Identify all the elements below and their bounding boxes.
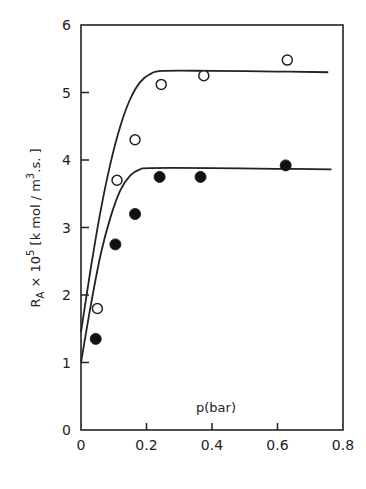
y-title-rest1: [k mol / m xyxy=(28,179,43,249)
fit-curves xyxy=(81,71,332,363)
filled-circles-point xyxy=(154,171,165,182)
x-tick-label: 0.8 xyxy=(332,437,354,453)
y-title-main: R xyxy=(28,298,43,307)
x-tick-label: 0 xyxy=(77,437,86,453)
y-title-mid: × 10 xyxy=(28,256,43,292)
y-tick-label: 2 xyxy=(62,287,71,303)
y-tick-label: 1 xyxy=(62,355,71,371)
plot-frame xyxy=(81,25,343,430)
open-circles-fit-curve xyxy=(81,71,328,333)
open-circles-point xyxy=(130,135,140,145)
filled-circles-point xyxy=(195,171,206,182)
y-tick-label: 6 xyxy=(62,17,71,33)
open-circles-point xyxy=(282,55,292,65)
chart: 00.20.40.60.8 0123456 p(bar) RA × 105 [k… xyxy=(0,0,366,489)
y-axis-title: RA × 105 [k mol / m3.s. ] xyxy=(25,149,46,308)
open-circles-point xyxy=(156,79,166,89)
filled-circles-point xyxy=(130,209,141,220)
data-points xyxy=(90,55,292,344)
y-tick-label: 4 xyxy=(62,152,71,168)
y-tick-label: 3 xyxy=(62,220,71,236)
y-tick-label: 5 xyxy=(62,85,71,101)
open-circles-point xyxy=(112,175,122,185)
open-circles-point xyxy=(199,71,209,81)
x-tick-label: 0.2 xyxy=(135,437,157,453)
open-circles-point xyxy=(92,304,102,314)
x-tick-label: 0.4 xyxy=(201,437,223,453)
y-tick-label: 0 xyxy=(62,422,71,438)
y-title-rest2: .s. ] xyxy=(28,149,43,173)
x-ticks: 00.20.40.60.8 xyxy=(77,423,355,453)
x-axis-title: p(bar) xyxy=(196,400,236,415)
filled-circles-fit-curve xyxy=(81,168,332,363)
x-tick-label: 0.6 xyxy=(266,437,288,453)
y-ticks: 0123456 xyxy=(62,17,89,438)
filled-circles-point xyxy=(90,333,101,344)
filled-circles-point xyxy=(110,239,121,250)
filled-circles-point xyxy=(280,160,291,171)
